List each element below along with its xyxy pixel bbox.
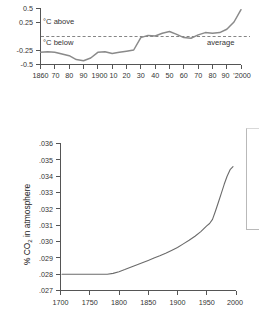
temperature-x-tick-label-13: 90: [222, 71, 230, 80]
side-panel-edge: [246, 128, 259, 230]
temperature-x-tick-label-8: 40: [151, 71, 159, 80]
temperature-x-tick-label-10: 60: [180, 71, 188, 80]
co2-y-tick-label-0: .036: [39, 139, 53, 148]
co2-y-axis-title-suffix: in atmosphere: [22, 184, 32, 240]
co2-x-tick-label-6: 2000: [227, 298, 243, 307]
temperature-x-tick-label-1: 70: [52, 71, 60, 80]
annotation-average: average: [207, 38, 234, 47]
co2-x-tick-label-2: 1800: [111, 298, 127, 307]
co2-y-tick-label-1: .035: [39, 156, 53, 165]
temperature-x-tick-label-4: 1900: [92, 71, 108, 80]
annotation-c-above: °C above: [43, 17, 74, 26]
co2-y-tick-label-4: .032: [39, 205, 53, 214]
temperature-x-ticks: [41, 65, 242, 70]
co2-y-tick-label-6: .030: [39, 237, 53, 246]
temperature-anomaly-chart: 0.5 0.25 -0.25 -0.5 1860 70 80 90 1900: [0, 0, 259, 95]
co2-y-tick-label-8: .028: [39, 270, 53, 279]
temperature-y-tick-label-3: -0.5: [21, 60, 33, 69]
temperature-x-tick-label-5: 10: [110, 71, 118, 80]
co2-y-tick-label-5: .031: [39, 221, 53, 230]
temperature-x-tick-label-7: 30: [137, 71, 145, 80]
annotation-c-below: °C below: [43, 38, 74, 47]
temperature-x-tick-label-2: 80: [65, 71, 73, 80]
co2-atmosphere-chart: .036 .035 .034 .033 .032 .031 .030 .029 …: [0, 105, 259, 323]
temperature-x-tick-label-11: 70: [194, 71, 202, 80]
co2-y-axis-title-prefix: % CO: [22, 242, 32, 265]
temperature-x-tick-label-3: 90: [80, 71, 88, 80]
temperature-y-tick-label-0: 0.5: [23, 4, 33, 13]
co2-atmosphere-svg: .036 .035 .034 .033 .032 .031 .030 .029 …: [0, 105, 259, 323]
temperature-y-tick-label-2: -0.25: [17, 46, 33, 55]
co2-y-ticks: [56, 144, 61, 291]
co2-y-tick-label-9: .027: [39, 286, 53, 295]
co2-y-tick-label-3: .033: [39, 188, 53, 197]
co2-series-line: [62, 167, 233, 275]
co2-x-ticks: [61, 291, 237, 296]
co2-y-axis-title: % CO2 in atmosphere: [22, 184, 33, 265]
temperature-y-tick-label-1: 0.25: [19, 18, 33, 27]
co2-y-tick-label-2: .034: [39, 172, 53, 181]
temperature-y-ticks: [36, 9, 41, 65]
temperature-x-tick-label-6: 20: [123, 71, 131, 80]
temperature-x-tick-label-0: 1860: [33, 71, 49, 80]
co2-y-tick-label-7: .029: [39, 254, 53, 263]
co2-x-tick-label-4: 1900: [170, 298, 186, 307]
temperature-x-tick-label-9: 50: [166, 71, 174, 80]
co2-x-tick-label-1: 1750: [82, 298, 98, 307]
co2-x-tick-label-3: 1850: [140, 298, 156, 307]
co2-x-tick-label-0: 1700: [53, 298, 69, 307]
temperature-x-tick-label-14: '2000: [233, 71, 250, 80]
temperature-anomaly-svg: 0.5 0.25 -0.25 -0.5 1860 70 80 90 1900: [0, 0, 259, 95]
temperature-x-tick-label-12: 80: [209, 71, 217, 80]
co2-x-tick-label-5: 1950: [199, 298, 215, 307]
